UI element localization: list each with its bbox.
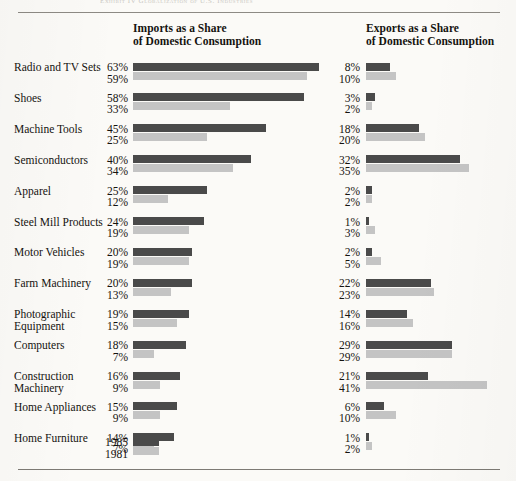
exports-value-1985: 3% [324,93,360,104]
imports-bar-1981 [133,133,207,141]
imports-value-1985: 24% [92,217,128,228]
chart-legend: 1985 1981 [0,437,516,461]
exports-bar-1981 [366,195,372,203]
exports-value-1985: 14% [324,309,360,320]
imports-value-pair: 20%13% [92,278,128,301]
exports-value-1985: 2% [324,186,360,197]
exports-bar-1985 [366,217,369,225]
imports-value-1985: 63% [92,62,128,73]
exports-bar-1985 [366,402,384,410]
imports-bar-1981 [133,257,189,265]
exports-value-pair: 22%23% [324,278,360,301]
exports-value-pair: 18%20% [324,124,360,147]
category-label-line1: Construction [14,370,73,382]
imports-value-1981: 12% [92,197,128,208]
exports-bar-1981 [366,226,375,234]
exports-value-1981: 2% [324,197,360,208]
exports-value-pair: 6%10% [324,402,360,425]
exports-value-1985: 2% [324,247,360,258]
imports-value-1981: 33% [92,104,128,115]
category-label-line1: Computers [14,339,64,351]
category-label-line1: Home Appliances [14,401,96,413]
exports-value-1981: 41% [324,383,360,394]
imports-bar-1981 [133,72,307,80]
exports-value-1985: 21% [324,371,360,382]
imports-value-1981: 7% [92,352,128,363]
exports-bar-1985 [366,155,460,163]
table-row: PhotographicEquipment19%15%14%16% [0,309,516,333]
exports-value-pair: 21%41% [324,371,360,394]
exports-value-pair: 14%16% [324,309,360,332]
imports-bar-1981 [133,319,177,327]
exports-bar-1985 [366,341,452,349]
exports-bar-1985 [366,372,428,380]
table-row: Radio and TV Sets63%59%8%10% [0,62,516,86]
exports-value-1985: 18% [324,124,360,135]
imports-bar-1985 [133,63,319,71]
imports-value-1985: 16% [92,371,128,382]
exports-bar-1985 [366,93,375,101]
exports-bar-1981 [366,381,487,389]
legend-year-labels: 1985 1981 [92,437,128,460]
chart-rows: Radio and TV Sets63%59%8%10%Shoes58%33%3… [0,0,516,481]
exports-value-1981: 20% [324,135,360,146]
imports-bar-1985 [133,310,189,318]
imports-bar-1981 [133,411,160,419]
imports-value-pair: 18%7% [92,340,128,363]
exports-bar-1981 [366,319,413,327]
exports-bar-1985 [366,124,419,132]
exports-value-pair: 32%35% [324,155,360,178]
table-row: Home Appliances15%9%6%10% [0,402,516,426]
category-label-line1: Motor Vehicles [14,246,84,258]
imports-value-1981: 13% [92,290,128,301]
category-label-line1: Apparel [14,185,51,197]
imports-value-1985: 15% [92,402,128,413]
imports-value-1985: 25% [92,186,128,197]
exports-value-1981: 3% [324,228,360,239]
imports-value-pair: 63%59% [92,62,128,85]
exports-value-1981: 5% [324,259,360,270]
exports-bar-1981 [366,350,452,358]
imports-value-1985: 45% [92,124,128,135]
exports-bar-1985 [366,186,372,194]
table-row: Computers18%7%29%29% [0,340,516,364]
exports-bar-1981 [366,257,381,265]
imports-value-pair: 25%12% [92,186,128,209]
exports-bar-1985 [366,279,431,287]
imports-bar-1985 [133,402,177,410]
table-row: Apparel25%12%2%2% [0,186,516,210]
legend-swatch-1985 [133,438,159,446]
legend-label-1985: 1985 [92,437,128,448]
exports-bar-1985 [366,310,407,318]
exports-value-1981: 10% [324,74,360,85]
imports-value-1981: 19% [92,228,128,239]
legend-swatch-1981 [133,447,159,455]
table-row: Semiconductors40%34%32%35% [0,155,516,179]
exports-value-1985: 6% [324,402,360,413]
imports-bar-1981 [133,195,168,203]
imports-bar-1985 [133,341,186,349]
exports-value-1981: 35% [324,166,360,177]
imports-bar-1985 [133,124,266,132]
imports-value-1985: 20% [92,278,128,289]
legend-label-1981: 1981 [92,449,128,460]
exports-value-1981: 29% [324,352,360,363]
exports-value-1981: 16% [324,321,360,332]
exhibit-sheet: Exhibit IV Globalization of U.S. Industr… [0,0,516,481]
imports-value-1981: 59% [92,74,128,85]
imports-value-pair: 40%34% [92,155,128,178]
imports-value-1985: 58% [92,93,128,104]
exports-bar-1981 [366,102,372,110]
exports-value-pair: 1%3% [324,217,360,240]
exports-value-1981: 23% [324,290,360,301]
exports-value-pair: 2%2% [324,186,360,209]
bottom-rule [18,469,500,470]
table-row: Machine Tools45%25%18%20% [0,124,516,148]
imports-value-pair: 20%19% [92,247,128,270]
exports-value-pair: 29%29% [324,340,360,363]
table-row: Farm Machinery20%13%22%23% [0,278,516,302]
imports-value-1981: 15% [92,321,128,332]
exports-bar-1981 [366,164,469,172]
table-row: ConstructionMachinery16%9%21%41% [0,371,516,395]
imports-bar-1981 [133,226,189,234]
